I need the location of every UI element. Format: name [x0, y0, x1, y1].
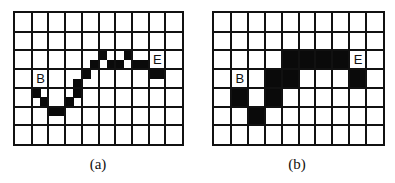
- grid-line: [214, 124, 383, 126]
- filled-pixel: [282, 50, 299, 69]
- panel-b: BE (b): [0, 0, 395, 183]
- start-marker-label: B: [233, 71, 247, 86]
- end-marker-label: E: [351, 52, 365, 67]
- filled-pixel: [265, 88, 282, 107]
- filled-pixel: [282, 69, 299, 88]
- pixel-grid-b: BE: [212, 11, 385, 146]
- grid-line: [214, 87, 383, 89]
- filled-pixel: [265, 69, 282, 88]
- filled-pixel: [231, 88, 248, 107]
- filled-pixel: [248, 107, 265, 126]
- grid-line: [214, 49, 383, 51]
- filled-pixel: [299, 50, 316, 69]
- filled-pixel: [332, 50, 349, 69]
- caption-b: (b): [267, 156, 327, 173]
- grid-line: [214, 68, 383, 70]
- filled-pixel: [349, 69, 366, 88]
- grid-line: [214, 31, 383, 33]
- grid-line: [214, 106, 383, 108]
- filled-pixel: [315, 50, 332, 69]
